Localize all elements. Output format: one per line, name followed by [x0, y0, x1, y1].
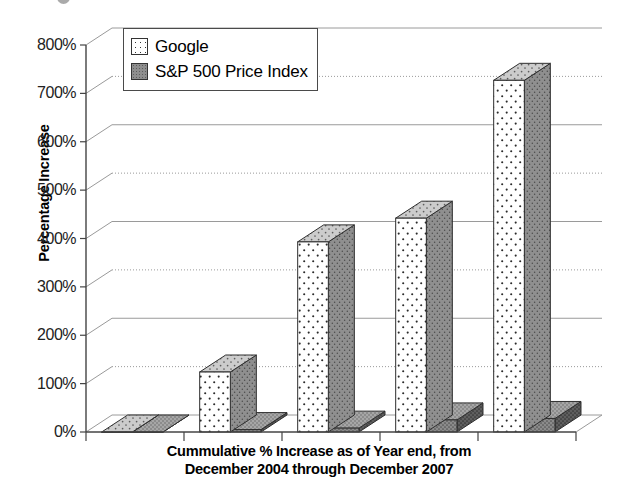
legend-label-sp500: S&P 500 Price Index — [155, 62, 308, 82]
y-axis-tick-labels: 0%100%200%300%400%500%600%700%800% — [14, 0, 76, 498]
legend-label-google: Google — [155, 37, 209, 57]
bar-google[interactable] — [298, 225, 355, 432]
bar-google[interactable] — [494, 63, 551, 432]
bar-google[interactable] — [396, 201, 453, 432]
chart-container: Percentage Increase 0%100%200%300%400%50… — [0, 0, 617, 498]
y-tick-label: 700% — [14, 85, 76, 101]
bar-group — [102, 63, 581, 432]
google-swatch-icon — [131, 38, 148, 55]
y-tick-label: 200% — [14, 327, 76, 343]
x-axis-title-line2: December 2004 through December 2007 — [84, 461, 554, 479]
legend-item-google[interactable]: Google — [131, 34, 308, 59]
y-tick-label: 300% — [14, 279, 76, 295]
y-tick-label: 500% — [14, 182, 76, 198]
y-tick-label: 400% — [14, 231, 76, 247]
sp500-swatch-icon — [131, 63, 148, 80]
y-tick-label: 0% — [14, 424, 76, 440]
y-tick-label: 800% — [14, 37, 76, 53]
y-tick-label: 600% — [14, 134, 76, 150]
bar-google[interactable] — [200, 355, 257, 432]
chart-legend: Google S&P 500 Price Index — [123, 28, 318, 91]
y-tick-label: 100% — [14, 376, 76, 392]
legend-item-sp500[interactable]: S&P 500 Price Index — [131, 59, 308, 84]
x-axis-title: Cummulative % Increase as of Year end, f… — [84, 443, 554, 479]
x-axis-title-line1: Cummulative % Increase as of Year end, f… — [84, 443, 554, 461]
